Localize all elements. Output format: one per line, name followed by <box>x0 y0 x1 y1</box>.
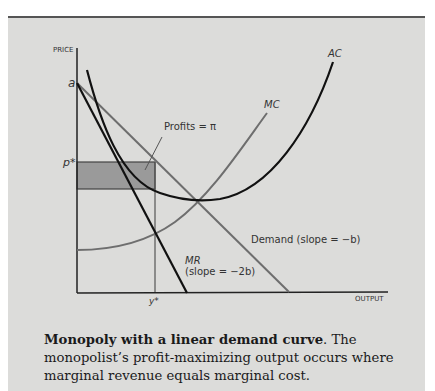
mr-label: MR <box>185 255 201 266</box>
profits-label: Profits = π <box>164 121 216 132</box>
mc-label: MC <box>264 99 280 110</box>
a-label: a <box>68 76 75 90</box>
p-star-label: p* <box>62 156 76 169</box>
mr-slope-label: (slope = −2b) <box>185 266 255 277</box>
figure-caption: Monopoly with a linear demand curve. The… <box>44 331 404 385</box>
x-axis-label: OUTPUT <box>355 295 384 303</box>
demand-label: Demand (slope = −b) <box>251 234 361 245</box>
ac-label: AC <box>327 48 342 59</box>
y-star-label: y* <box>148 296 159 306</box>
caption-title: Monopoly with a linear demand curve <box>44 332 323 347</box>
x-axis <box>77 292 388 293</box>
y-axis-label: PRICE <box>53 46 73 54</box>
